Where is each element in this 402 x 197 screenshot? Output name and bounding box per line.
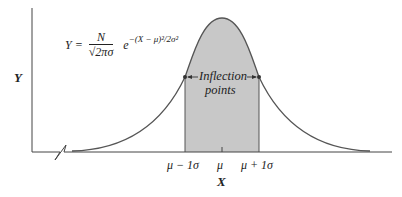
- formula-lhs: Y =: [65, 38, 83, 52]
- formula-numerator: N: [89, 31, 114, 45]
- tick-minus-sigma: μ − 1σ: [167, 158, 199, 173]
- formula-exponent: −(X − μ)²/2σ²: [129, 34, 179, 44]
- tick-mu: μ: [217, 158, 223, 173]
- inflection-point-left: [183, 75, 187, 79]
- formula-fraction: N √2πσ: [89, 31, 114, 59]
- tick-plus-sigma: μ + 1σ: [241, 158, 273, 173]
- x-axis-label: X: [217, 174, 226, 190]
- inflection-label-line2: points: [205, 83, 236, 98]
- formula-denominator: √2πσ: [89, 45, 114, 59]
- y-axis-label: Y: [14, 70, 22, 86]
- inflection-point-right: [257, 75, 261, 79]
- curve-graphic: [0, 0, 402, 197]
- formula: Y = N √2πσ e−(X − μ)²/2σ²: [65, 31, 178, 59]
- normal-distribution-figure: Y = N √2πσ e−(X − μ)²/2σ² Y X μ − 1σ μ μ…: [0, 0, 402, 197]
- inflection-label-line1: Inflection: [199, 69, 247, 84]
